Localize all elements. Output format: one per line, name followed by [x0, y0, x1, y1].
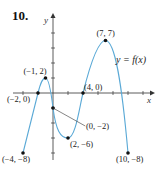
leader-line	[53, 108, 85, 126]
point-label: (−4, −8)	[2, 154, 30, 164]
function-graph: xy (−4, −8)(−2, 0)(−1, 2)(0, −2)(2, −6)(…	[0, 0, 162, 174]
point-label: (−2, 0)	[7, 94, 30, 104]
point-label: (4, 0)	[84, 82, 103, 92]
data-point	[104, 39, 108, 43]
y-axis-arrow-icon	[51, 13, 56, 18]
point-label: (0, −2)	[86, 121, 109, 131]
function-label: y = f(x)	[115, 54, 147, 66]
point-label: (7, 7)	[97, 28, 116, 38]
point-label: (−1, 2)	[24, 66, 47, 76]
point-label: (10, −8)	[116, 154, 144, 164]
function-curve	[23, 41, 128, 154]
y-axis-label: y	[43, 15, 48, 25]
data-point	[36, 91, 40, 95]
x-axis-label: x	[146, 95, 151, 105]
point-label: (2, −6)	[70, 139, 93, 149]
data-point	[44, 76, 48, 80]
